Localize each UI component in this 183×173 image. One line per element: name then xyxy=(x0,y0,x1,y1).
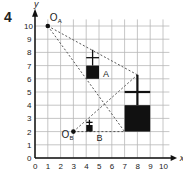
x-tick-label: 7 xyxy=(123,162,128,171)
y-tick-label: 2 xyxy=(27,128,32,137)
x-axis-label: x xyxy=(179,153,183,163)
shape-label-b: B xyxy=(97,133,103,143)
center-label-subscript: A xyxy=(58,18,62,24)
y-tick-label: 10 xyxy=(24,22,33,31)
shape-label-a: A xyxy=(103,69,109,79)
y-axis-arrow-icon xyxy=(32,9,38,17)
x-tick-label: 3 xyxy=(71,162,76,171)
x-tick-label: 8 xyxy=(135,162,140,171)
y-tick-label: 3 xyxy=(27,114,32,123)
x-tick-label: 5 xyxy=(97,162,102,171)
shape-square xyxy=(86,66,99,79)
center-label-subscript: B xyxy=(69,135,73,141)
x-tick-label: 9 xyxy=(148,162,153,171)
shape-square xyxy=(125,105,151,131)
x-tick-label: 2 xyxy=(59,162,64,171)
y-tick-label: 0 xyxy=(27,154,32,163)
y-tick-label: 9 xyxy=(27,35,32,44)
shape-square xyxy=(86,125,92,132)
center-label: O xyxy=(50,12,58,23)
x-tick-label: 4 xyxy=(84,162,89,171)
x-tick-label: 0 xyxy=(33,162,38,171)
x-axis-arrow-icon xyxy=(171,155,177,161)
y-tick-label: 6 xyxy=(27,75,32,84)
x-tick-label: 10 xyxy=(159,162,168,171)
center-point xyxy=(46,24,51,29)
y-tick-label: 1 xyxy=(27,141,32,150)
x-tick-label: 1 xyxy=(46,162,51,171)
y-axis-label: y xyxy=(33,0,39,9)
x-tick-label: 6 xyxy=(110,162,115,171)
y-tick-label: 8 xyxy=(27,48,32,57)
y-tick-label: 7 xyxy=(27,62,32,71)
y-tick-label: 5 xyxy=(27,88,32,97)
enlargement-diagram: xy012345678910012345678910ABOAOB xyxy=(0,0,183,173)
center-point xyxy=(71,129,76,134)
y-tick-label: 4 xyxy=(27,101,32,110)
center-label: O xyxy=(61,129,69,140)
